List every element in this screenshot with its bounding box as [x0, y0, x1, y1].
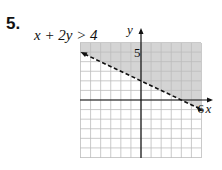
y-axis-label: y	[125, 22, 133, 37]
y-axis-arrow-icon	[139, 28, 144, 34]
x-tick-label: 6	[198, 101, 205, 116]
x-axis-label: x	[205, 101, 212, 116]
y-tick-label: 5	[134, 45, 141, 60]
inequality-graph: y56x	[0, 0, 222, 170]
